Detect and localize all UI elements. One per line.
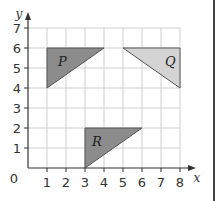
y-tick-label: 6: [13, 41, 21, 56]
label-q: Q: [165, 54, 176, 69]
y-tick-label: 3: [13, 101, 21, 116]
x-tick-label: 3: [81, 175, 89, 190]
y-tick-label: 1: [13, 141, 21, 156]
y-tick-label: 4: [13, 81, 21, 96]
x-tick-label: 8: [176, 175, 184, 190]
x-tick-label: 7: [157, 175, 165, 190]
origin-label: 0: [10, 171, 18, 186]
y-tick-label: 7: [13, 21, 21, 36]
x-tick-label: 5: [119, 175, 127, 190]
x-tick-label: 2: [62, 175, 70, 190]
x-tick-label: 4: [100, 175, 108, 190]
label-p: P: [57, 54, 67, 69]
y-tick-label: 5: [13, 61, 21, 76]
y-axis-label: y: [15, 7, 23, 21]
x-tick-label: 1: [43, 175, 51, 190]
x-axis-label: x: [194, 171, 201, 185]
coordinate-grid-diagram: 1 2 3 4 5 6 7 8 1 2 3 4 5 6 7 0 x y P Q …: [0, 0, 219, 201]
label-r: R: [91, 134, 102, 149]
y-tick-label: 2: [13, 121, 21, 136]
x-tick-marks: [47, 168, 180, 172]
x-tick-label: 6: [138, 175, 146, 190]
